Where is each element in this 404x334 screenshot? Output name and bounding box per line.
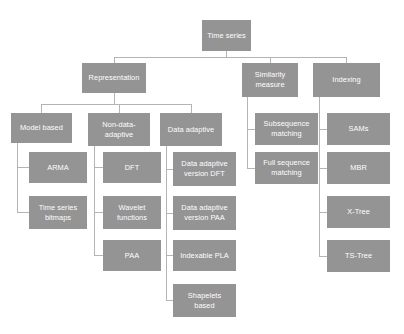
node-label: Time series bitmaps [39,203,77,223]
node-arma[interactable]: ARMA [29,152,87,183]
node-label: Non-data- adaptive [102,120,135,140]
node-indexable-pla[interactable]: Indexable PLA [173,240,236,271]
node-label: MBR [350,163,367,173]
node-label: X-Tree [347,207,370,217]
node-label: Data adaptive [168,125,214,135]
node-x-tree[interactable]: X-Tree [327,196,390,228]
node-dft[interactable]: DFT [103,152,161,183]
node-label: ARMA [47,163,69,173]
node-label: SAMs [349,124,369,134]
node-label: Full sequence matching [263,158,310,178]
node-shapelets-based[interactable]: Shapelets based [173,284,236,317]
node-representation[interactable]: Representation [82,63,146,93]
node-data-adaptive-paa[interactable]: Data adaptive version PAA [173,196,236,230]
node-label: TS-Tree [345,251,372,261]
node-label: Similarity measure [255,70,285,90]
node-label: Subsequence matching [264,119,310,139]
node-time-series-bitmaps[interactable]: Time series bitmaps [29,196,87,229]
node-label: Data adaptive version PAA [181,203,227,223]
node-mbr[interactable]: MBR [327,152,390,184]
node-data-adaptive[interactable]: Data adaptive [160,113,222,146]
node-model-based[interactable]: Model based [11,113,72,143]
node-paa[interactable]: PAA [103,240,161,271]
node-label: Shapelets based [188,291,221,311]
tree-diagram: Time seriesRepresentationSimilarity meas… [0,0,404,334]
node-non-data-adaptive[interactable]: Non-data- adaptive [88,113,150,146]
node-sams[interactable]: SAMs [327,113,390,145]
node-time-series[interactable]: Time series [202,20,251,51]
node-label: DFT [125,163,140,173]
node-full-sequence-matching[interactable]: Full sequence matching [255,152,318,184]
node-subsequence-matching[interactable]: Subsequence matching [255,113,318,145]
node-data-adaptive-dft[interactable]: Data adaptive version DFT [173,152,236,186]
node-label: Time series [207,31,245,41]
node-label: Indexable PLA [180,251,229,261]
node-label: PAA [125,251,139,261]
node-label: Representation [89,73,140,83]
node-wavelet-functions[interactable]: Wavelet functions [103,196,161,229]
node-similarity-measure[interactable]: Similarity measure [242,63,298,97]
node-ts-tree[interactable]: TS-Tree [327,240,390,272]
node-label: Data adaptive version DFT [181,159,227,179]
node-label: Model based [20,123,63,133]
node-indexing[interactable]: Indexing [313,63,380,97]
node-label: Indexing [332,75,360,85]
node-label: Wavelet functions [117,203,147,223]
